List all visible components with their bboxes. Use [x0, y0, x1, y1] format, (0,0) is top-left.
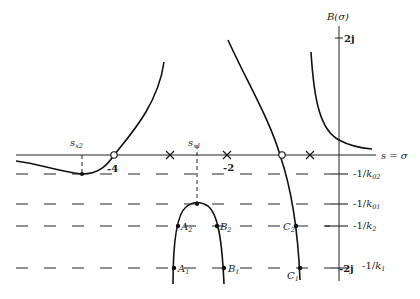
sx1-label: sx1 — [188, 137, 201, 150]
point-label-B2: B2 — [219, 221, 232, 234]
curve-right — [311, 52, 372, 149]
point-label-B1: B1 — [227, 263, 240, 276]
level-ticks — [325, 174, 348, 268]
x-label-minus4: -4 — [107, 163, 118, 174]
point-label-C1: C1 — [287, 270, 299, 283]
level-label-k01: -1/k01 — [353, 198, 380, 211]
level-label-k2: -1/k2 — [353, 220, 376, 233]
x-label-minus2: -2 — [223, 162, 234, 173]
zero-marker-minus4 — [111, 152, 117, 158]
y-tick-label-2j: 2j — [344, 33, 355, 44]
x-axis-label: s = σ — [381, 150, 409, 161]
y-axis-label: B(σ) — [326, 11, 349, 22]
point-label-A2: A2 — [180, 221, 192, 234]
b-sigma-diagram: B(σ) 2j s = σ -2j -4 -2 sx2 sx1 -1/k02 -… — [0, 0, 420, 299]
curve-c — [228, 40, 300, 280]
point-dots — [80, 172, 302, 270]
sx2-label: sx2 — [70, 137, 83, 150]
curve-left — [16, 62, 164, 174]
point-label-C2: C2 — [283, 221, 295, 234]
point-label-A1: A1 — [177, 263, 189, 276]
y-tick-label-minus2j: -2j — [339, 263, 354, 274]
zero-marker-right — [279, 152, 285, 158]
level-label-k1: -1/k1 — [362, 260, 385, 273]
level-label-k02: -1/k02 — [353, 168, 380, 181]
locus-curves — [16, 40, 372, 284]
